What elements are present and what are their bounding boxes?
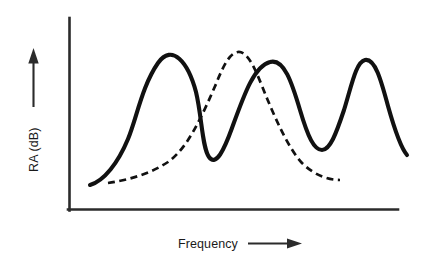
chart-figure: RA (dB) Frequency (0, 0, 427, 264)
chart-background (0, 0, 427, 264)
x-axis-label: Frequency (178, 237, 239, 251)
y-axis-label: RA (dB) (27, 128, 41, 172)
chart-svg: RA (dB) Frequency (0, 0, 427, 264)
